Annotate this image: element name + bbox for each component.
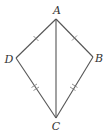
vertex-label-c: C	[52, 120, 61, 132]
edge-bc	[56, 57, 93, 118]
edge-cd	[16, 58, 56, 118]
vertex-label-b: B	[94, 52, 103, 65]
vertex-label-a: A	[52, 4, 61, 17]
kite-diagram: A B C D	[0, 0, 109, 132]
vertex-label-d: D	[4, 53, 14, 66]
